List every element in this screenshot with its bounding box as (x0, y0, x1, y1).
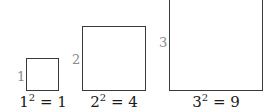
caption-base: 2 (90, 93, 100, 111)
caption-3: 32 = 9 (192, 95, 240, 110)
caption-1: 12 = 1 (19, 95, 67, 110)
side-label-3: 3 (159, 36, 167, 49)
caption-equals: = (40, 93, 53, 111)
caption-result: 4 (128, 93, 138, 111)
square-2 (82, 26, 146, 91)
side-label-2: 2 (72, 53, 80, 66)
side-label-1: 1 (17, 70, 25, 83)
caption-equals: = (213, 93, 226, 111)
caption-result: 9 (230, 93, 240, 111)
caption-exponent: 2 (29, 92, 35, 103)
caption-exponent: 2 (202, 92, 208, 103)
caption-base: 1 (19, 93, 29, 111)
caption-base: 3 (192, 93, 202, 111)
caption-exponent: 2 (100, 92, 106, 103)
caption-2: 22 = 4 (90, 95, 138, 110)
square-1 (26, 58, 59, 91)
caption-equals: = (111, 93, 124, 111)
caption-result: 1 (57, 93, 67, 111)
square-3 (169, 0, 263, 91)
